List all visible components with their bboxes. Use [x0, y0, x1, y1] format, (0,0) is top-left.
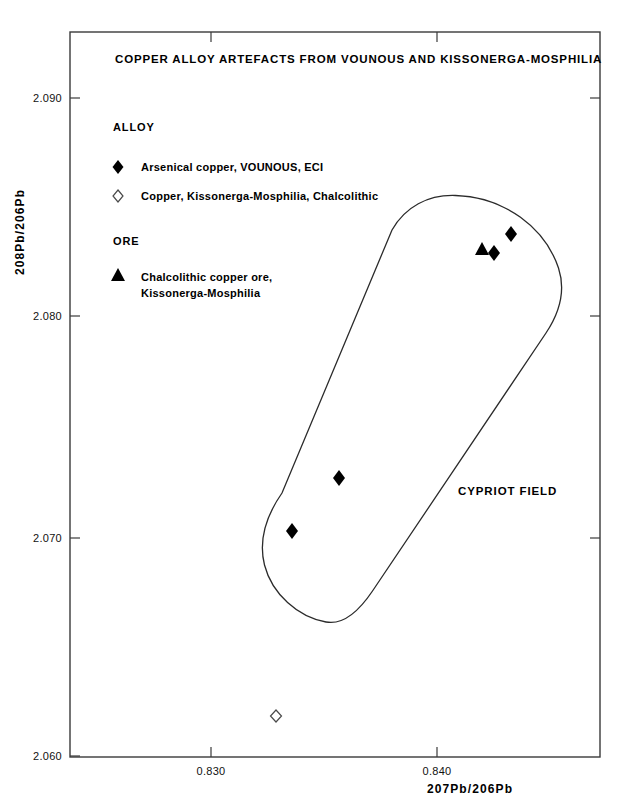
- data-point-kissonerga-copper-1: [271, 710, 282, 722]
- lead-isotope-scatter-figure: 2.090 2.080 2.070 2.060 0.830 0.840 208P…: [0, 0, 623, 802]
- chart-title: COPPER ALLOY ARTEFACTS FROM VOUNOUS AND …: [115, 53, 602, 65]
- chart-svg: 2.090 2.080 2.070 2.060 0.830 0.840 208P…: [0, 0, 623, 802]
- y-tick-label-2060: 2.060: [33, 750, 62, 762]
- legend-label-arsenical-copper: Arsenical copper, VOUNOUS, ECI: [141, 161, 323, 173]
- data-point-arsenical-copper-3: [333, 470, 345, 486]
- data-markers: [271, 226, 518, 722]
- x-tick-label-0840: 0.840: [422, 765, 451, 777]
- plot-frame: [70, 32, 600, 757]
- cypriot-field-outline: [262, 195, 562, 622]
- legend-label-chalcolithic-ore-line2: Kissonerga-Mosphilia: [141, 287, 261, 299]
- legend-label-chalcolithic-ore-line1: Chalcolithic copper ore,: [141, 271, 272, 283]
- y-tick-label-2090: 2.090: [33, 92, 62, 104]
- x-axis-ticks: [211, 32, 437, 757]
- data-point-arsenical-copper-4: [286, 523, 298, 539]
- data-point-arsenical-copper-1: [505, 226, 517, 242]
- legend: ALLOY Arsenical copper, VOUNOUS, ECI Cop…: [111, 121, 378, 299]
- legend-marker-filled-triangle: [111, 268, 125, 281]
- x-axis-title: 207Pb/206Pb: [427, 782, 513, 796]
- cypriot-field-label: CYPRIOT FIELD: [458, 485, 557, 497]
- legend-marker-open-diamond: [113, 190, 123, 202]
- legend-marker-filled-diamond: [113, 160, 124, 174]
- data-point-arsenical-copper-2: [488, 245, 500, 261]
- legend-group-alloy-heading: ALLOY: [113, 121, 155, 133]
- y-axis-title: 208Pb/206Pb: [13, 189, 27, 275]
- x-tick-label-0830: 0.830: [196, 765, 225, 777]
- data-point-chalcolithic-ore-1: [475, 242, 489, 255]
- legend-label-kissonerga-copper: Copper, Kissonerga-Mosphilia, Chalcolith…: [141, 190, 378, 202]
- legend-group-ore-heading: ORE: [113, 235, 140, 247]
- y-tick-label-2070: 2.070: [33, 532, 62, 544]
- y-tick-label-2080: 2.080: [33, 310, 62, 322]
